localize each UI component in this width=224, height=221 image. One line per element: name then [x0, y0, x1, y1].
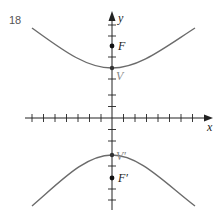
focus-f-prime-label: F′ — [117, 171, 128, 185]
y-axis-arrow-icon — [109, 11, 116, 21]
vertex-v-prime-label: V′ — [116, 149, 126, 163]
focus-f-label: F — [117, 39, 126, 53]
lower-branch-curve — [32, 155, 195, 206]
x-axis — [25, 114, 213, 122]
y-axis-label: y — [117, 11, 124, 25]
focus-f-point — [110, 44, 115, 49]
focus-f-prime-point — [110, 176, 115, 181]
vertex-v-point — [110, 66, 114, 70]
upper-branch-curve — [32, 28, 195, 68]
x-axis-label: x — [206, 120, 213, 134]
vertex-v-label: V — [116, 69, 125, 83]
hyperbola-diagram: y x F V V′ F′ — [0, 0, 224, 221]
vertex-v-prime-point — [110, 153, 114, 157]
